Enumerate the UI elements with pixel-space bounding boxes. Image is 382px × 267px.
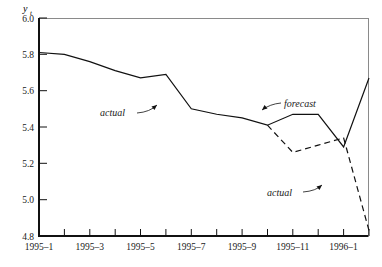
y-tick-label: 5.4 [22,123,34,133]
y-tick-label: 5.0 [22,195,34,205]
y-tick-label: 5.2 [22,159,34,169]
arrowhead-actual-dashed [317,185,323,190]
line-chart-svg: 6.0 5.8 5.6 5.4 5.2 5.0 4.8 y t [0,0,382,267]
plot-frame [39,19,369,237]
x-tick-label: 1995–1 [25,242,54,252]
annotation-actual-dashed: actual [267,187,292,198]
y-tick-label: 6.0 [22,14,34,24]
x-tick-label: 1996–1 [329,242,358,252]
x-tick-label: 1995–9 [228,242,257,252]
annotation-forecast: forecast [284,98,316,109]
arrowhead-actual-solid [152,105,158,110]
y-tick-label: 5.8 [22,50,34,60]
x-tick-label: 1995–11 [276,242,309,252]
y-axis-tick-labels: 6.0 5.8 5.6 5.4 5.2 5.0 4.8 [22,14,34,242]
x-tick-label: 1995–7 [177,242,206,252]
x-axis-tick-labels: 1995–1 1995–3 1995–5 1995–7 1995–9 1995–… [25,242,358,252]
x-tick-label: 1995–5 [126,242,155,252]
y-axis-ticks [39,18,47,236]
chart-figure: 6.0 5.8 5.6 5.4 5.2 5.0 4.8 y t [0,0,382,267]
y-tick-label: 4.8 [22,232,34,242]
x-axis-ticks [39,229,369,236]
y-axis-title-main: y [22,3,28,14]
x-tick-label: 1995–3 [76,242,105,252]
series-line-actual [267,125,369,230]
y-tick-label: 5.6 [22,86,34,96]
series-line-forecast [39,53,369,147]
annotation-actual-solid: actual [100,107,125,118]
